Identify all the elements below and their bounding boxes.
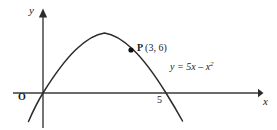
curve-equation-label: y = 5x – x2 <box>170 61 214 72</box>
curve-equation-exponent: 2 <box>210 60 214 68</box>
figure-canvas <box>0 0 277 130</box>
point-p-name: P <box>137 42 145 53</box>
point-p-coords: (3, 6) <box>145 42 167 53</box>
y-axis-label: y <box>29 5 34 16</box>
parabola-figure: y x O 5 P (3, 6) y = 5x – x2 <box>0 0 277 130</box>
curve-equation-text: y = 5x – x <box>170 61 210 72</box>
point-p-label: P (3, 6) <box>137 43 167 53</box>
origin-label: O <box>18 92 26 102</box>
x-tick-label-5: 5 <box>157 95 162 105</box>
point-p-marker <box>128 47 133 52</box>
y-axis-arrow-icon <box>39 9 47 18</box>
x-axis-label: x <box>263 96 268 107</box>
